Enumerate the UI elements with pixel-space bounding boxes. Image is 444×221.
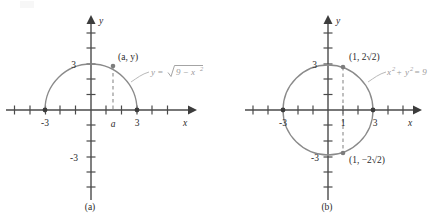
- panel-b-equation: x 2 + y 2 = 9: [386, 65, 427, 77]
- panel-a-point-label: (a, y): [118, 52, 138, 63]
- panel-a-xtick-label-neg3: -3: [41, 118, 49, 128]
- panel-b-point-label-upper: (1, 2√2): [349, 52, 380, 63]
- panel-b-ytick-label-neg3: -3: [311, 153, 319, 163]
- panel-b-xtick-label-neg3: -3: [279, 118, 287, 128]
- panel-b-equation-plus: +: [396, 67, 402, 77]
- panel-b-ytick-label-3: 3: [312, 60, 317, 70]
- panel-b: 3 -3 -3 3 1 (1, 2√2) (1, −2√2) x y x 2 +…: [245, 15, 427, 213]
- panel-a-caption: (a): [85, 202, 96, 213]
- panel-b-foot-label-1: 1: [341, 118, 346, 128]
- panel-b-x-axis-arrow: [413, 106, 422, 115]
- panel-a-y-axis-arrow: [87, 15, 96, 24]
- panel-b-equation-leader: [368, 72, 386, 82]
- panel-a-equation-radicand: 9 − x: [176, 67, 195, 77]
- panel-b-equation-rhs: = 9: [414, 67, 427, 77]
- panel-b-y-axis-label: y: [335, 16, 341, 26]
- panel-b-point-lower: [341, 151, 346, 156]
- panel-b-point-neg3: [281, 108, 286, 113]
- figure-svg: 3 -3 -3 3 a (a, y) x y y = 9 − x 2 (a): [0, 0, 444, 221]
- panel-a-xtick-label-3: 3: [135, 118, 140, 128]
- panel-b-xtick-label-3: 3: [373, 118, 378, 128]
- panel-a-y-axis-label: y: [98, 16, 104, 26]
- panel-b-y-axis-arrow: [324, 15, 333, 24]
- panel-a-equation-radicand-exponent: 2: [200, 65, 204, 72]
- panel-a-ytick-label-neg3: -3: [70, 153, 78, 163]
- panel-a-point-pos3: [135, 108, 140, 113]
- panel-a: 3 -3 -3 3 a (a, y) x y y = 9 − x 2 (a): [6, 15, 204, 213]
- panel-b-point-label-lower: (1, −2√2): [349, 155, 385, 166]
- panel-b-equation-y: y: [404, 67, 409, 77]
- panel-a-equation-lhs: y =: [150, 67, 163, 77]
- panel-a-foot-label-a: a: [111, 119, 116, 129]
- panel-b-caption: (b): [321, 202, 332, 213]
- panel-b-equation-x: x: [386, 67, 391, 77]
- scan-artifact: [20, 1, 34, 8]
- panel-b-point-pos3: [371, 108, 376, 113]
- panel-a-point-neg3: [43, 108, 48, 113]
- panel-b-x-axis-label: x: [407, 118, 413, 128]
- panel-a-x-axis-arrow: [188, 106, 197, 115]
- panel-b-point-upper: [341, 65, 346, 70]
- panel-a-ytick-label-3: 3: [71, 60, 76, 70]
- panel-a-point-a-y: [111, 64, 116, 69]
- panel-a-equation-leader: [131, 72, 149, 82]
- panel-a-x-axis-label: x: [182, 118, 188, 128]
- figure-root: 3 -3 -3 3 a (a, y) x y y = 9 − x 2 (a): [0, 0, 444, 221]
- panel-a-equation: y = 9 − x 2: [150, 65, 204, 77]
